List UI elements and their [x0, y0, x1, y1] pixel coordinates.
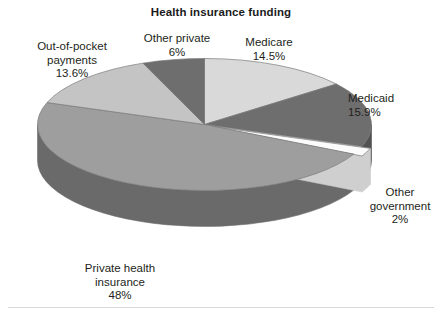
footer-divider	[8, 307, 434, 308]
slice-label-other-government-name-line1: Other	[360, 186, 440, 200]
slice-label-other-government-name-line2: government	[360, 200, 440, 214]
slice-label-out-of-pocket: Out-of-pocket payments 13.6%	[8, 40, 136, 81]
slice-label-other-private-value: 6%	[124, 46, 230, 60]
slice-label-medicaid: Medicaid 15.9%	[348, 92, 440, 119]
slice-label-private-health-value: 48%	[58, 289, 182, 303]
slice-label-other-private: Other private 6%	[124, 32, 230, 59]
slice-label-medicare: Medicare 14.5%	[224, 36, 314, 63]
slice-label-out-of-pocket-value: 13.6%	[8, 67, 136, 81]
pie-chart-figure: Health insurance funding Medicare 14.5% …	[0, 0, 442, 321]
slice-label-other-government: Other government 2%	[360, 186, 440, 227]
slice-label-medicare-value: 14.5%	[224, 50, 314, 64]
slice-label-out-of-pocket-name-line2: payments	[8, 54, 136, 68]
slice-label-out-of-pocket-name-line1: Out-of-pocket	[8, 40, 136, 54]
slice-label-other-private-name: Other private	[124, 32, 230, 46]
slice-label-medicaid-name: Medicaid	[348, 92, 440, 106]
slice-label-medicaid-value: 15.9%	[348, 106, 440, 120]
slice-label-private-health-insurance: Private health insurance 48%	[58, 262, 182, 303]
slice-label-medicare-name: Medicare	[224, 36, 314, 50]
slice-label-private-health-name-line2: insurance	[58, 276, 182, 290]
slice-label-other-government-value: 2%	[360, 213, 440, 227]
slice-label-private-health-name-line1: Private health	[58, 262, 182, 276]
